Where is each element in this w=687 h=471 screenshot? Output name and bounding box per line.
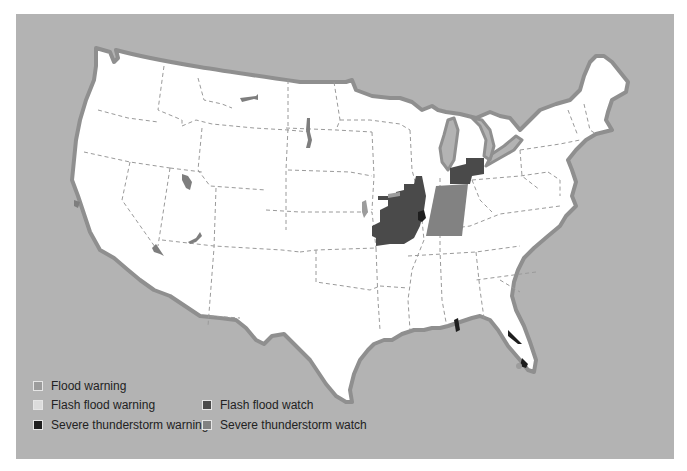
legend-label: Flood warning: [51, 379, 126, 393]
legend-swatch-flood-warning: [33, 381, 43, 391]
legend-item-severe-thunderstorm-warning: Severe thunderstorm warning: [33, 418, 208, 432]
legend-item-flash-flood-warning: Flash flood warning: [33, 398, 155, 412]
legend-label: Severe thunderstorm watch: [220, 418, 367, 432]
us-landmass: [72, 48, 628, 402]
legend-label: Flash flood watch: [220, 398, 313, 412]
legend-item-flash-flood-watch: Flash flood watch: [202, 398, 313, 412]
alert-flood-warning-fl: [516, 363, 522, 369]
legend-swatch-severe-thunderstorm-warning: [33, 420, 43, 430]
legend-label: Flash flood warning: [51, 398, 155, 412]
legend-label: Severe thunderstorm warning: [51, 418, 208, 432]
legend-swatch-flash-flood-watch: [202, 400, 212, 410]
legend-swatch-flash-flood-warning: [33, 400, 43, 410]
legend-item-flood-warning: Flood warning: [33, 379, 126, 393]
legend-swatch-severe-thunderstorm-watch: [202, 420, 212, 430]
legend-item-severe-thunderstorm-watch: Severe thunderstorm watch: [202, 418, 367, 432]
